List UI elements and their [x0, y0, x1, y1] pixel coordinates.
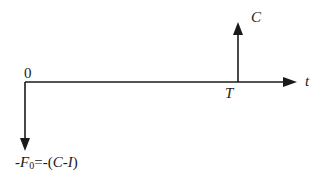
time-axis-label: t [305, 74, 309, 89]
inflow-label: C [251, 10, 261, 25]
origin-label: 0 [24, 66, 32, 81]
outflow-label-close: ) [73, 154, 78, 170]
outflow-label: -F0=-(C-I) [15, 155, 78, 171]
outflow-label-c: C [53, 154, 63, 170]
time-axis-arrowhead [283, 77, 297, 87]
outflow-arrowhead [20, 138, 30, 151]
inflow-arrowhead [233, 22, 243, 35]
outflow-label-rest: =-( [34, 154, 52, 170]
inflow-time-label: T [225, 86, 233, 101]
outflow-label-var: F [20, 154, 29, 170]
